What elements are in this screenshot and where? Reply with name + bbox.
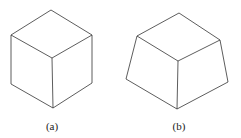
- cube-drawing: [11, 10, 92, 108]
- figure-a-label: (a): [46, 120, 58, 132]
- figure-b-label: (b): [173, 120, 186, 132]
- diagram-canvas: [0, 0, 241, 138]
- frustum-drawing: [126, 13, 228, 109]
